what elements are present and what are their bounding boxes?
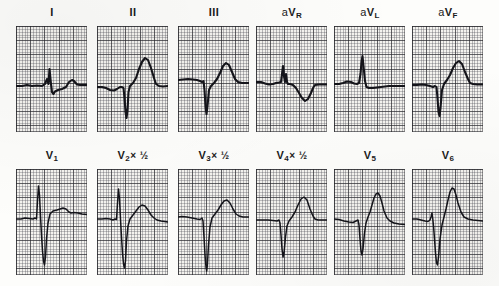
ecg-grid-strip-V5 (334, 169, 405, 275)
lead-panel-aVF[interactable]: aVF (409, 0, 487, 143)
lead-subscript-R: R (296, 11, 302, 20)
lead-label-aVF: aVF (409, 6, 487, 18)
lead-panel-I[interactable]: I (13, 0, 91, 143)
ecg-trace-svg-V3 (178, 169, 249, 275)
ecg-waveform-aVL (334, 56, 405, 88)
ecg-waveform-V5 (334, 193, 405, 255)
lead-scale-note: × ½ (289, 150, 307, 161)
lead-subscript-4: 4 (284, 154, 289, 163)
ecg-grid-strip-V1 (16, 169, 87, 275)
lead-subscript-5: 5 (371, 154, 376, 163)
lead-label-V5: V5 (331, 149, 409, 161)
ecg-grid-strip-III (178, 26, 249, 132)
lead-subscript-2: 2 (125, 154, 130, 163)
lead-panel-V1[interactable]: V1 (13, 143, 91, 286)
lead-label-aVL: aVL (331, 6, 409, 18)
lead-panel-II[interactable]: II (94, 0, 172, 143)
ecg-trace-svg-V2 (97, 169, 168, 275)
lead-panel-V5[interactable]: V5 (331, 143, 409, 286)
lead-label-II: II (94, 6, 172, 18)
lead-scale-note: × ½ (130, 150, 148, 161)
ecg-trace-svg-I (16, 26, 87, 132)
lead-label-V2: V2× ½ (94, 149, 172, 161)
lead-label-I: I (13, 6, 91, 18)
ecg-grid-strip-V2 (97, 169, 168, 275)
lead-label-aVR: aVR (253, 6, 331, 18)
lead-label-V1: V1 (13, 149, 91, 161)
ecg-waveform-aVF (412, 61, 483, 116)
ecg-waveform-V2 (97, 189, 168, 268)
ecg-trace-svg-aVF (412, 26, 483, 132)
lead-label-text: III (209, 6, 219, 18)
ecg-grid-strip-I (16, 26, 87, 132)
lead-label-text: II (130, 6, 137, 18)
lead-panel-V3[interactable]: V3× ½ (175, 143, 253, 286)
ecg-waveform-I (16, 69, 87, 94)
ecg-grid-strip-aVF (412, 26, 483, 132)
ecg-trace-svg-aVR (256, 26, 327, 132)
lead-subscript-L: L (374, 11, 379, 20)
ecg-grid-strip-V4 (256, 169, 327, 275)
ecg-waveform-aVR (256, 66, 327, 101)
lead-label-V6: V6 (409, 149, 487, 161)
ecg-grid-strip-aVL (334, 26, 405, 132)
lead-panel-aVR[interactable]: aVR (253, 0, 331, 143)
lead-label-V3: V3× ½ (175, 149, 253, 161)
lead-panel-aVL[interactable]: aVL (331, 0, 409, 143)
ecg-row-precordial-leads: V1 V2× ½ V3× ½ (0, 143, 499, 286)
lead-subscript-6: 6 (449, 154, 454, 163)
lead-label-III: III (175, 6, 253, 18)
lead-subscript-1: 1 (53, 154, 58, 163)
ecg-waveform-V4 (256, 197, 327, 257)
ecg-trace-svg-III (178, 26, 249, 132)
ecg-waveform-V6 (412, 188, 483, 265)
ecg-trace-svg-II (97, 26, 168, 132)
ecg-trace-svg-aVL (334, 26, 405, 132)
lead-subscript-F: F (452, 11, 457, 20)
ecg-grid-strip-II (97, 26, 168, 132)
ecg-grid-strip-V3 (178, 169, 249, 275)
lead-panel-V6[interactable]: V6 (409, 143, 487, 286)
ecg-waveform-III (178, 63, 249, 114)
ecg-waveform-V1 (16, 186, 87, 265)
ecg-waveform-V3 (178, 200, 249, 271)
lead-panel-V2[interactable]: V2× ½ (94, 143, 172, 286)
ecg-waveform-II (97, 58, 168, 118)
lead-label-V4: V4× ½ (253, 149, 331, 161)
lead-subscript-3: 3 (206, 154, 211, 163)
lead-panel-V4[interactable]: V4× ½ (253, 143, 331, 286)
lead-scale-note: × ½ (211, 150, 229, 161)
ecg-trace-svg-V6 (412, 169, 483, 275)
ecg-trace-svg-V5 (334, 169, 405, 275)
ecg-grid-strip-V6 (412, 169, 483, 275)
ecg-trace-svg-V1 (16, 169, 87, 275)
ecg-figure: I II III (0, 0, 499, 286)
lead-panel-III[interactable]: III (175, 0, 253, 143)
ecg-grid-strip-aVR (256, 26, 327, 132)
lead-label-text: I (50, 6, 53, 18)
ecg-trace-svg-V4 (256, 169, 327, 275)
ecg-row-limb-leads: I II III (0, 0, 499, 143)
lead-letter-V: V (288, 6, 296, 18)
